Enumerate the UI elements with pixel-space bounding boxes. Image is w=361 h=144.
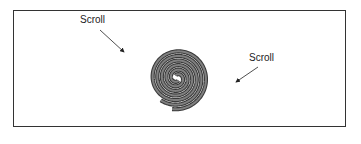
arrow-scroll-right (236, 67, 258, 82)
arrow-scroll-left (100, 30, 124, 52)
label-scroll-right: Scroll (249, 52, 274, 63)
label-scroll-left: Scroll (80, 14, 105, 25)
spiral-group (153, 51, 206, 109)
scroll-spiral-diagram (0, 0, 361, 144)
